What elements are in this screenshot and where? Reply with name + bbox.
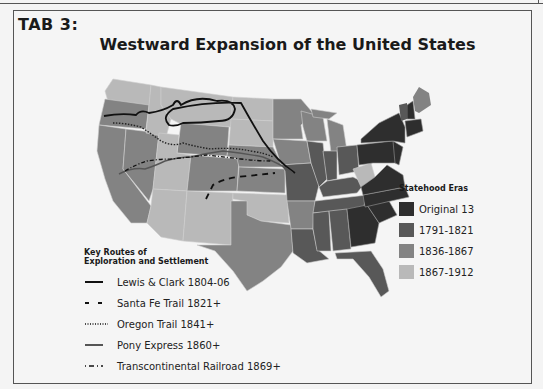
routes-legend-title-line1: Key Routes of [84, 248, 281, 257]
era-label: 1791-1821 [419, 225, 474, 236]
maine [413, 87, 431, 113]
route-label: Oregon Trail 1841+ [117, 319, 214, 330]
dotted-line-icon [84, 321, 112, 327]
routes-legend-title-line2: Exploration and Settlement [84, 257, 281, 266]
swatch-1791-1821 [399, 223, 414, 237]
route-label: Transcontinental Railroad 1869+ [117, 361, 281, 372]
gray-line-icon [84, 342, 112, 348]
route-legend-railroad: Transcontinental Railroad 1869+ [84, 359, 281, 373]
route-label: Pony Express 1860+ [117, 340, 220, 351]
route-label: Lewis & Clark 1804-06 [117, 277, 230, 288]
statehood-legend: Statehood Eras Original 13 1791-1821 183… [399, 184, 474, 286]
map-panel: TAB 3: Westward Expansion of the United … [13, 10, 532, 384]
era-1867-1912: 1867-1912 [399, 265, 474, 279]
statehood-legend-title: Statehood Eras [399, 184, 474, 193]
route-legend-lewis-clark: Lewis & Clark 1804-06 [84, 275, 281, 289]
solid-line-icon [84, 279, 112, 285]
era-label: 1836-1867 [419, 246, 474, 257]
route-legend-oregon: Oregon Trail 1841+ [84, 317, 281, 331]
era-label: 1867-1912 [419, 267, 474, 278]
routes-legend: Key Routes of Exploration and Settlement… [84, 248, 281, 380]
era-1836-1867: 1836-1867 [399, 244, 474, 258]
dashed-line-icon [84, 300, 112, 306]
era-1791-1821: 1791-1821 [399, 223, 474, 237]
dash-dot-line-icon [84, 363, 112, 369]
era-original-13: Original 13 [399, 202, 474, 216]
swatch-1836-1867 [399, 244, 414, 258]
route-legend-pony: Pony Express 1860+ [84, 338, 281, 352]
swatch-original-13 [399, 202, 414, 216]
era-label: Original 13 [419, 204, 474, 215]
route-label: Santa Fe Trail 1821+ [117, 298, 221, 309]
routes-legend-title: Key Routes of Exploration and Settlement [84, 248, 281, 266]
route-legend-santa-fe: Santa Fe Trail 1821+ [84, 296, 281, 310]
top-divider [0, 0, 543, 4]
swatch-1867-1912 [399, 265, 414, 279]
